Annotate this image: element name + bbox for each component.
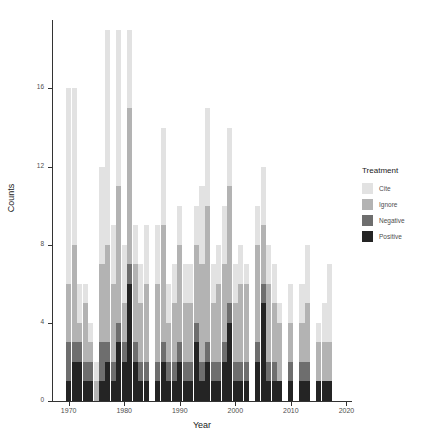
bar-segment-negative [88, 362, 93, 382]
bar [99, 167, 104, 401]
bar-segment-negative [305, 362, 310, 382]
bar-segment-cite [94, 362, 99, 382]
bar-segment-positive [127, 284, 132, 401]
bar-segment-ignore [105, 245, 110, 343]
bar-segment-cite [238, 245, 243, 284]
bar [316, 323, 321, 401]
bar [255, 206, 260, 401]
legend-item-ignore[interactable]: Ignore [362, 197, 432, 212]
bar-segment-cite [266, 245, 271, 284]
bar-segment-negative [238, 362, 243, 382]
bar-segment-ignore [94, 381, 99, 401]
bar-segment-cite [261, 167, 266, 226]
bar-segment-ignore [277, 323, 282, 382]
x-axis-title: Year [52, 420, 352, 430]
bar [127, 30, 132, 401]
bar-segment-ignore [316, 342, 321, 381]
bar-segment-cite [99, 167, 104, 265]
bar-segment-negative [177, 342, 182, 362]
bar-segment-positive [133, 362, 138, 401]
bar [322, 303, 327, 401]
bar-segment-negative [116, 323, 121, 343]
bar-segment-cite [72, 88, 77, 244]
bar-segment-negative [205, 342, 210, 362]
y-tick-label: 16 [0, 84, 44, 91]
y-tick-label: 12 [0, 163, 44, 170]
bar-segment-negative [111, 362, 116, 382]
bar [177, 206, 182, 401]
bar [244, 264, 249, 401]
legend-label: Ignore [379, 201, 397, 208]
bar-segment-ignore [305, 303, 310, 362]
bar-segment-ignore [244, 284, 249, 362]
bar-segment-negative [83, 362, 88, 382]
bar-segment-positive [288, 381, 293, 401]
bar-segment-positive [299, 381, 304, 401]
y-tick-mark [48, 401, 52, 402]
legend-item-negative[interactable]: Negative [362, 213, 432, 228]
bar [194, 206, 199, 401]
bar [94, 362, 99, 401]
bar-segment-negative [133, 342, 138, 362]
bar [166, 284, 171, 401]
bar-segment-positive [155, 381, 160, 401]
x-tick-label: 1990 [160, 407, 200, 414]
bar-segment-negative [194, 323, 199, 343]
bar-segment-positive [227, 323, 232, 401]
legend-label: Cite [379, 185, 391, 192]
bar [299, 284, 304, 401]
bar-segment-ignore [222, 264, 227, 342]
bar-segment-negative [244, 362, 249, 382]
bar-segment-ignore [77, 323, 82, 343]
bar-segment-positive [72, 362, 77, 401]
bar-segment-positive [172, 381, 177, 401]
bar-segment-ignore [233, 303, 238, 362]
bar [116, 30, 121, 401]
bar [66, 88, 71, 401]
bar-segment-cite [299, 284, 304, 323]
bars-layer [52, 20, 352, 401]
legend-item-cite[interactable]: Cite [362, 181, 432, 196]
x-tick-mark [346, 402, 347, 406]
bar-segment-cite [133, 225, 138, 264]
bar-segment-ignore [183, 303, 188, 362]
bar [222, 206, 227, 401]
bar-segment-positive [261, 303, 266, 401]
bar-segment-ignore [272, 303, 277, 362]
bar-segment-cite [205, 108, 210, 206]
plot-area [52, 20, 352, 401]
bar-segment-positive [277, 381, 282, 401]
bar [266, 245, 271, 401]
stacked-bar-chart: Counts 0481216 197019801990200020102020 … [0, 0, 432, 446]
bar-segment-cite [222, 206, 227, 265]
bar [144, 225, 149, 401]
bar-segment-negative [172, 362, 177, 382]
y-tick-label: 8 [0, 241, 44, 248]
legend-swatch-ignore [362, 199, 373, 210]
legend-item-positive[interactable]: Positive [362, 229, 432, 244]
bar-segment-ignore [177, 245, 182, 343]
x-tick-label: 2020 [326, 407, 366, 414]
bar-segment-ignore [199, 264, 204, 362]
bar-segment-positive [88, 381, 93, 401]
bar-segment-cite [88, 323, 93, 343]
bar-segment-negative [66, 342, 71, 381]
bar [111, 225, 116, 401]
bar-segment-positive [238, 381, 243, 401]
bar-segment-negative [227, 303, 232, 323]
bar-segment-positive [316, 381, 321, 401]
bar-segment-ignore [127, 108, 132, 264]
bar-segment-cite [166, 284, 171, 323]
bar-segment-negative [77, 342, 82, 362]
bar-segment-cite [161, 128, 166, 226]
bar-segment-positive [194, 342, 199, 401]
legend-swatch-negative [362, 215, 373, 226]
bar [161, 127, 166, 401]
bar-segment-positive [83, 381, 88, 401]
bar-segment-ignore [138, 303, 143, 362]
bar-segment-cite [66, 88, 71, 283]
bar-segment-negative [211, 362, 216, 382]
bar-segment-ignore [188, 303, 193, 362]
bar-segment-cite [255, 206, 260, 245]
bar-segment-cite [322, 303, 327, 342]
